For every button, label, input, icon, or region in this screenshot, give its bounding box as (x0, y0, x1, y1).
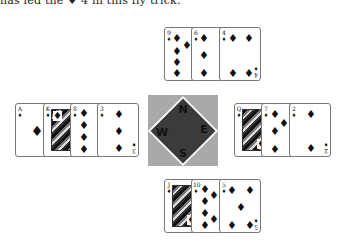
diamond-pip-icon: ♦ (306, 143, 316, 154)
card-rank: 8 (73, 105, 77, 112)
diamond-pip-icon: ♦ (244, 33, 254, 44)
card-rank: 2 (292, 105, 296, 112)
diamond-pip-icon: ♦ (227, 185, 237, 196)
diamond-suit-icon: ♦ (17, 112, 23, 118)
diamond-pip-icon: ♦ (31, 126, 44, 137)
card-north-4-diamonds[interactable]: 4♦ 4♦ ♦ ♦ ♦ ♦ (219, 27, 261, 81)
diamond-suit-icon: ♦ (193, 188, 199, 194)
compass-west-label: W (156, 126, 168, 139)
card-rank: 4 (254, 72, 258, 79)
card-south-5-diamonds[interactable]: 5♦ 5♦ ♦ ♦ ♦ ♦ ♦ (219, 179, 261, 233)
diamond-pip-icon: ♦ (199, 33, 209, 44)
diamond-suit-icon: ♦ (131, 142, 137, 148)
diamond-pip-icon: ♦ (270, 144, 280, 155)
compass-east-label: E (200, 123, 208, 136)
trick-caption: has led the ♦ 4 in this fly trick. (0, 0, 181, 7)
diamond-pip-icon: ♦ (236, 202, 246, 213)
diamond-suit-icon: ♦ (263, 112, 269, 118)
diamond-pip-icon: ♦ (279, 118, 289, 129)
diamond-pip-icon: ♦ (227, 220, 237, 231)
diamond-pip-icon: ♦ (306, 109, 316, 120)
diamond-pip-icon: ♦ (200, 196, 210, 207)
diamond-pip-icon: ♦ (114, 109, 124, 120)
north-hand: 9♦ ♦ ♦ ♦ ♦ ♦ 6♦ ♦ ♦ ♦ 4♦ 4♦ ♦ ♦ ♦ ♦ (164, 27, 262, 82)
diamond-pip-icon: ♦ (199, 50, 209, 61)
card-rank: 6 (194, 29, 198, 36)
card-rank: Q (237, 105, 242, 112)
diamond-pip-icon: ♦ (114, 126, 124, 137)
diamond-pip-icon: ♦ (200, 220, 210, 231)
card-rank: 5 (222, 181, 226, 188)
diamond-pip-icon: ♦ (79, 108, 89, 119)
diamond-suit-icon: ♦ (323, 142, 329, 148)
east-hand: Q♦ ♦ 7♦ ♦ ♦ ♦ ♦ 2♦ 2♦ ♦ ♦ (234, 103, 332, 158)
card-rank: 3 (100, 105, 104, 112)
card-rank: K (46, 105, 50, 112)
card-rank: 4 (222, 29, 226, 36)
diamond-pip-icon: ♦ (244, 68, 254, 79)
south-hand: J♦ ♦ 10♦ ♦ ♦ ♦ ♦ ♦ ♦ 5♦ 5♦ ♦ ♦ ♦ ♦ ♦ (164, 179, 262, 234)
diamond-pip-icon: ♦ (199, 68, 209, 79)
diamond-pip-icon: ♦ (228, 33, 238, 44)
card-rank: 9 (167, 29, 171, 36)
diamond-pip-icon: ♦ (209, 214, 219, 225)
diamond-pip-icon: ♦ (172, 33, 182, 44)
diamond-pip-icon: ♦ (228, 68, 238, 79)
diamond-suit-icon: ♦ (221, 36, 227, 42)
card-rank: 2 (324, 148, 328, 155)
card-rank: 3 (132, 148, 136, 155)
diamond-pip-icon: ♦ (245, 220, 255, 231)
card-rank: A (18, 105, 22, 112)
diamond-pip-icon: ♦ (79, 120, 89, 131)
compass-north-label: N (178, 103, 187, 116)
diamond-suit-icon: ♦ (99, 112, 105, 118)
diamond-pip-icon: ♦ (270, 126, 280, 137)
diamond-suit-icon: ♦ (291, 112, 297, 118)
diamond-suit-icon: ♦ (72, 112, 78, 118)
diamond-pip-icon: ♦ (209, 190, 219, 201)
card-west-3-diamonds[interactable]: 3♦ 3♦ ♦ ♦ ♦ (97, 103, 139, 157)
card-rank: 7 (264, 105, 268, 112)
card-east-2-diamonds[interactable]: 2♦ 2♦ ♦ ♦ (289, 103, 331, 157)
west-hand: A♦ ♦ K♦ ♦ 8♦ ♦ ♦ ♦ ♦ 3♦ 3♦ ♦ ♦ ♦ (15, 103, 141, 158)
diamond-pip-icon: ♦ (79, 144, 89, 155)
card-rank: J (168, 181, 170, 188)
compass-table: N W E S (148, 95, 218, 166)
compass-south-label: S (179, 147, 187, 160)
diamond-pip-icon: ♦ (172, 68, 182, 79)
diamond-pip-icon: ♦ (245, 185, 255, 196)
diamond-pip-icon: ♦ (114, 143, 124, 154)
diamond-pip-icon: ♦ (79, 132, 89, 143)
